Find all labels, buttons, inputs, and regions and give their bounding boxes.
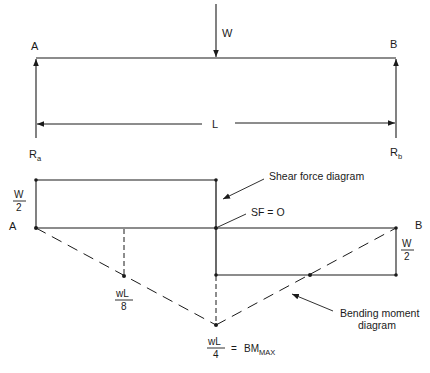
bmd-max-value: wL 4 = BMMAX [207, 336, 275, 360]
reaction-label-right: Rb [390, 146, 402, 161]
svg-text:2: 2 [404, 251, 410, 262]
sfd-label-a: A [9, 220, 17, 232]
svg-text:4: 4 [213, 349, 219, 360]
load-label: W [222, 27, 233, 39]
bmd-title-pointer [292, 294, 333, 311]
beam-label-b: B [390, 38, 397, 50]
reaction-label-left: Ra [29, 148, 42, 163]
bmd-title-line2: diagram [358, 319, 396, 331]
bmd-quarter-value: wL 8 [115, 288, 133, 312]
svg-text:wL: wL [207, 336, 221, 347]
svg-text:=: = [231, 343, 237, 354]
svg-text:8: 8 [121, 301, 127, 312]
sfd-label-b: B [415, 219, 422, 231]
sfd-title: Shear force diagram [269, 170, 364, 182]
svg-text:BMMAX: BMMAX [244, 343, 275, 357]
beam-diagram-figure: A B W Ra Rb L [0, 0, 430, 373]
bmd-title-line1: Bending moment [340, 307, 419, 319]
beam-label-a: A [31, 40, 39, 52]
sfd-title-pointer [223, 179, 264, 199]
bending-moment-diagram: wL 8 wL 4 = BMMAX Bending moment diagram [36, 228, 419, 360]
sfd-right-value: W 2 [401, 238, 414, 262]
span-label: L [212, 118, 218, 130]
svg-text:W: W [402, 238, 412, 249]
sf-zero-pointer [218, 214, 246, 227]
svg-text:2: 2 [16, 202, 22, 213]
sf-zero-label: SF = O [251, 206, 285, 218]
svg-text:W: W [14, 189, 24, 200]
beam-loading-diagram: A B W Ra Rb L [29, 4, 402, 163]
shear-force-diagram: A B W 2 W 2 Shear force diagram SF = O [9, 170, 422, 277]
sfd-left-value: W 2 [13, 189, 26, 213]
svg-text:wL: wL [115, 288, 129, 299]
